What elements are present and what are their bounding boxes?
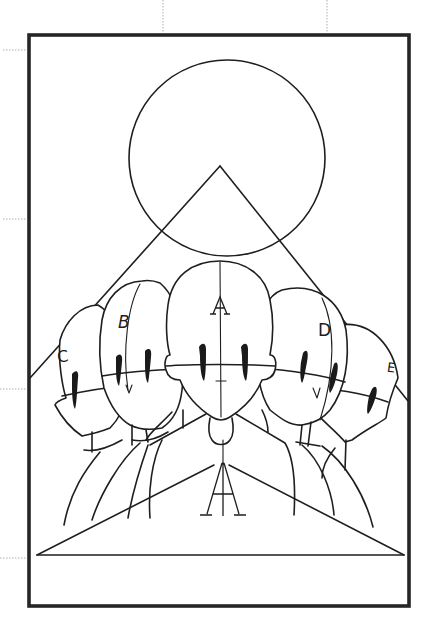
- head-a: [165, 261, 276, 445]
- label-d: D: [318, 320, 331, 340]
- halo-circle: [129, 60, 325, 256]
- label-b: B: [118, 312, 130, 332]
- drawing-canvas: E D C B: [0, 0, 434, 627]
- label-c: C: [56, 346, 69, 366]
- lower-triangle: [37, 465, 404, 555]
